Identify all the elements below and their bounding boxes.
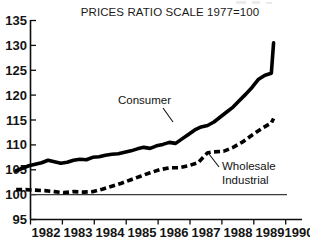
y-tick-135: 135 bbox=[5, 13, 27, 28]
y-tick-115: 115 bbox=[6, 113, 27, 128]
y-axis-labels: 135 130 125 120 115 110 105 100 95 bbox=[5, 13, 27, 227]
y-tick-130: 130 bbox=[5, 38, 27, 53]
y-tick-95: 95 bbox=[13, 212, 27, 227]
chart-canvas: PRICES RATIO SCALE 1977=100 135 130 125 … bbox=[0, 0, 310, 244]
chart-background bbox=[0, 0, 310, 244]
x-tick-1988: 1988 bbox=[224, 225, 253, 240]
x-tick-1986: 1986 bbox=[160, 225, 189, 240]
wholesale-label-line1: Wholesale bbox=[222, 160, 276, 172]
x-axis-labels: 1982 1983 1984 1985 1986 1987 1988 1989 … bbox=[32, 225, 310, 240]
y-tick-110: 110 bbox=[6, 137, 27, 152]
x-tick-1985: 1985 bbox=[128, 225, 157, 240]
prices-ratio-chart: PRICES RATIO SCALE 1977=100 135 130 125 … bbox=[0, 0, 310, 244]
x-tick-1982: 1982 bbox=[32, 225, 61, 240]
x-tick-1983: 1983 bbox=[64, 225, 93, 240]
consumer-label: Consumer bbox=[118, 94, 171, 106]
wholesale-label-line2: Industrial bbox=[222, 174, 269, 186]
x-tick-1989: 1989 bbox=[256, 225, 285, 240]
chart-title: PRICES RATIO SCALE 1977=100 bbox=[81, 6, 260, 18]
x-tick-1990: 1990 bbox=[285, 225, 310, 240]
x-tick-1987: 1987 bbox=[192, 225, 221, 240]
y-tick-120: 120 bbox=[5, 88, 27, 103]
x-tick-1984: 1984 bbox=[96, 225, 126, 240]
y-tick-125: 125 bbox=[5, 63, 27, 78]
